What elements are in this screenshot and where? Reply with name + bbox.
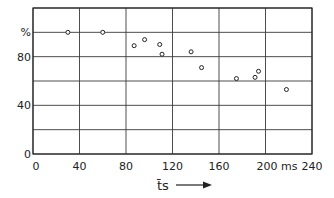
x-tick-label: 40 <box>73 160 87 173</box>
y-tick-label: 40 <box>17 99 31 112</box>
data-point <box>257 69 261 73</box>
x-tick-label: 160 <box>209 160 230 173</box>
data-point <box>101 30 105 34</box>
data-point <box>66 30 70 34</box>
data-point <box>160 52 164 56</box>
data-point <box>189 50 193 54</box>
data-point <box>158 43 162 47</box>
x-tick-label: 200 ms <box>257 160 298 173</box>
x-axis-arrow-icon <box>203 182 212 189</box>
data-point <box>284 88 288 92</box>
data-point <box>234 77 238 81</box>
x-tick-label: 0 <box>33 160 40 173</box>
scatter-chart: 04080% 04080120160200 ms240 t̄s <box>0 0 334 198</box>
grid <box>33 8 312 154</box>
data-point <box>132 44 136 48</box>
data-point <box>253 75 257 79</box>
y-tick-label: 0 <box>24 148 31 161</box>
x-axis-ticks: 04080120160200 ms240 <box>33 160 323 173</box>
data-point <box>143 38 147 42</box>
data-points <box>66 30 289 91</box>
y-axis-ticks: 04080% <box>17 26 31 161</box>
x-tick-label: 240 <box>302 160 323 173</box>
y-unit-label: % <box>21 26 31 39</box>
x-tick-label: 120 <box>162 160 183 173</box>
x-axis-title: t̄s <box>156 178 169 193</box>
data-point <box>200 66 204 70</box>
x-tick-label: 80 <box>119 160 133 173</box>
y-tick-label: 80 <box>17 51 31 64</box>
x-axis-label: t̄s <box>156 178 212 193</box>
